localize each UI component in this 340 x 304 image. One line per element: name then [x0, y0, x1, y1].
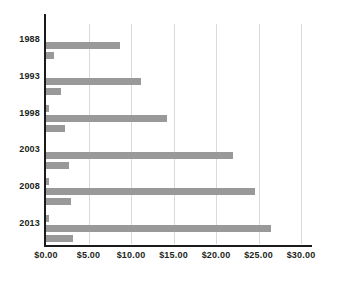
bar — [46, 88, 61, 95]
x-axis-tick-label: $5.00 — [77, 250, 101, 260]
y-axis-tick-label: 2013 — [0, 218, 40, 228]
bar — [46, 178, 49, 185]
bar-group — [46, 61, 301, 98]
x-axis-tick-labels: $0.00$5.00$10.00$15.00$20.00$25.00$30.00 — [0, 250, 340, 266]
bar — [46, 152, 233, 159]
bar — [46, 198, 71, 205]
bar — [46, 125, 65, 132]
y-axis-tick-label: 1993 — [0, 71, 40, 81]
bar — [46, 188, 255, 195]
x-axis-line — [44, 245, 312, 247]
bar — [46, 52, 54, 59]
bar-group — [46, 97, 301, 134]
bar — [46, 105, 49, 112]
bar-group — [46, 171, 301, 208]
bar-group — [46, 207, 301, 244]
x-axis-tick-label: $25.00 — [244, 250, 273, 260]
y-axis-line — [44, 14, 46, 246]
plot-area — [46, 24, 301, 244]
y-axis-tick-label: 2008 — [0, 181, 40, 191]
bar — [46, 115, 167, 122]
bar-group — [46, 24, 301, 61]
y-axis-tick-label: 1988 — [0, 34, 40, 44]
bar — [46, 215, 49, 222]
y-axis-tick-label: 1998 — [0, 108, 40, 118]
x-axis-tick-label: $30.00 — [287, 250, 316, 260]
bar — [46, 78, 141, 85]
bar-group — [46, 134, 301, 171]
bar-chart: 198819931998200320082013 $0.00$5.00$10.0… — [0, 0, 340, 304]
gridline — [301, 24, 302, 244]
x-axis-tick-label: $0.00 — [34, 250, 58, 260]
x-axis-tick-label: $20.00 — [202, 250, 231, 260]
x-axis-tick-label: $15.00 — [159, 250, 188, 260]
x-axis-tick-label: $10.00 — [117, 250, 146, 260]
bar — [46, 235, 73, 242]
y-axis-tick-label: 2003 — [0, 144, 40, 154]
bar — [46, 162, 69, 169]
bar — [46, 225, 271, 232]
y-axis-tick-labels: 198819931998200320082013 — [0, 24, 40, 244]
bar — [46, 42, 120, 49]
